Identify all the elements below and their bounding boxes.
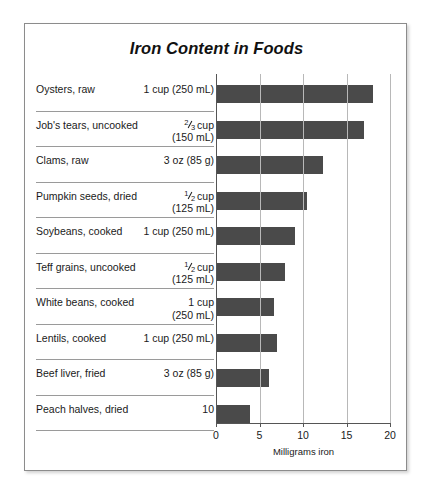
bar — [216, 85, 373, 103]
tick-mark-10 — [303, 423, 304, 427]
x-tick-label: 20 — [375, 429, 405, 441]
tick-mark-20 — [390, 423, 391, 427]
food-name: Pumpkin seeds, dried — [36, 190, 137, 202]
bar — [216, 369, 269, 387]
serving-quantity: 1 cup (250 mL) — [143, 225, 214, 238]
gridline-10 — [303, 74, 304, 423]
bar — [216, 334, 277, 352]
food-name: Job's tears, uncooked — [36, 119, 138, 131]
row-label: Job's tears, uncooked23 cup(150 mL) — [36, 112, 214, 148]
x-axis-label: Milligrams iron — [216, 446, 391, 457]
food-name: Soybeans, cooked — [36, 225, 122, 237]
serving-quantity: 1 cup (250 mL) — [143, 83, 214, 96]
food-name: White beans, cooked — [36, 296, 134, 308]
x-tick-label: 10 — [288, 429, 318, 441]
x-tick-label: 5 — [245, 429, 275, 441]
tick-mark-5 — [260, 423, 261, 427]
row-label: Oysters, raw1 cup (250 mL) — [36, 76, 214, 112]
gridline-15 — [347, 74, 348, 423]
plot-area: Oysters, raw1 cup (250 mL)Job's tears, u… — [25, 24, 408, 472]
serving-quantity: 1 cup (250 mL) — [143, 332, 214, 345]
serving-quantity: 23 cup(150 mL) — [172, 119, 214, 144]
row-label: Peach halves, dried10 — [36, 396, 214, 432]
y-axis-line — [216, 74, 217, 423]
row-label: Pumpkin seeds, dried12 cup(125 mL) — [36, 183, 214, 219]
food-name: Beef liver, fried — [36, 367, 105, 379]
food-name: Peach halves, dried — [36, 403, 128, 415]
bar — [216, 227, 295, 245]
row-label: White beans, cooked1 cup(250 mL) — [36, 289, 214, 325]
tick-mark-15 — [347, 423, 348, 427]
bar — [216, 263, 285, 281]
food-name: Clams, raw — [36, 154, 89, 166]
bar — [216, 298, 274, 316]
row-label: Lentils, cooked1 cup (250 mL) — [36, 325, 214, 361]
row-label: Beef liver, fried3 oz (85 g) — [36, 360, 214, 396]
x-tick-label: 0 — [201, 429, 231, 441]
fraction-glyph: 12 — [184, 190, 194, 201]
x-tick-label: 15 — [332, 429, 362, 441]
serving-quantity-line2: (250 mL) — [172, 309, 214, 322]
gridline-20 — [390, 74, 391, 423]
chart-figure-frame: Iron Content in Foods Oysters, raw1 cup … — [24, 23, 407, 471]
bar — [216, 405, 250, 423]
bar — [216, 192, 307, 210]
serving-quantity: 12 cup(125 mL) — [172, 190, 214, 215]
food-name: Lentils, cooked — [36, 332, 106, 344]
row-label: Soybeans, cooked1 cup (250 mL) — [36, 218, 214, 254]
food-name: Oysters, raw — [36, 83, 95, 95]
food-name: Teff grains, uncooked — [36, 261, 136, 273]
fraction-glyph: 12 — [184, 261, 194, 272]
serving-quantity: 1 cup(250 mL) — [172, 296, 214, 321]
serving-quantity: 12 cup(125 mL) — [172, 261, 214, 286]
serving-quantity: 10 — [202, 403, 214, 416]
row-label: Teff grains, uncooked12 cup(125 mL) — [36, 254, 214, 290]
fraction-glyph: 23 — [184, 119, 194, 130]
tick-mark-0 — [216, 423, 217, 427]
bar — [216, 156, 323, 174]
serving-quantity: 3 oz (85 g) — [164, 154, 214, 167]
gridline-5 — [260, 74, 261, 423]
row-label: Clams, raw3 oz (85 g) — [36, 147, 214, 183]
serving-quantity: 3 oz (85 g) — [164, 367, 214, 380]
bar — [216, 121, 364, 139]
